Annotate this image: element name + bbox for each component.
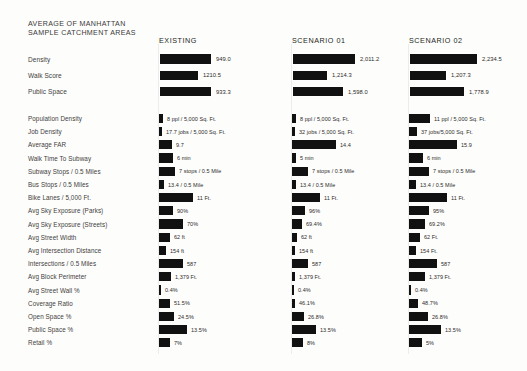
row-label: Coverage Ratio [28,300,73,307]
value-label: 9.7 [176,142,184,148]
row-label: Walk Score [28,72,62,79]
value-label: 6 min [427,155,441,161]
value-label: 5 min [300,155,314,161]
value-bar [292,285,294,294]
table-row: Average FAR9.714.415.9 [0,139,527,152]
column-header-scenario-02: SCENARIO 02 [409,36,463,45]
value-bar [409,153,423,162]
value-bar [159,140,172,149]
value-bar [292,86,344,97]
value-bar [292,233,297,242]
value-bar [409,246,416,255]
value-bar [159,299,170,308]
value-bar [292,114,296,123]
table-row: Coverage Ratio51.5%46.1%48.7% [0,297,527,310]
value-bar [409,70,447,81]
value-bar [409,53,478,64]
value-label: 7% [174,340,182,346]
value-label: 13.5% [320,327,336,333]
column-header-scenario-01: SCENARIO 01 [292,36,346,45]
value-label: 69.2% [429,221,445,227]
table-row: Walk Time To Subway6 min5 min6 min [0,152,527,165]
value-label: 11 Ft. [451,195,465,201]
value-label: 69.4% [306,221,322,227]
row-label: Bus Stops / 0.5 Miles [28,181,89,188]
page-title: AVERAGE OF MANHATTAN SAMPLE CATCHMENT AR… [28,20,136,37]
value-label: 0.4% [298,287,311,293]
row-label: Avg Street Width [28,234,76,241]
value-bar [159,272,171,281]
value-bar [409,325,441,334]
table-row: Retail %7%8%5% [0,337,527,350]
value-bar [159,70,199,81]
row-label: Bike Lanes / 5,000 Ft. [28,194,91,201]
value-bar [292,167,308,176]
value-label: 933.3 [216,89,231,95]
value-label: 1,379 Ft. [299,274,321,280]
row-label: Avg Sky Exposure (Streets) [28,221,107,228]
value-label: 2,234.5 [482,56,502,62]
row-label: Intersections / 0.5 Miles [28,260,96,267]
value-bar [409,259,437,268]
value-label: 62 ft [301,234,312,240]
row-label: Avg Street Wall % [28,287,80,294]
value-label: 6 min [177,155,191,161]
value-label: 14.4 [340,142,351,148]
value-label: 62 Ft. [424,234,438,240]
row-label: Density [28,56,50,63]
value-bar [409,233,420,242]
row-label: Retail % [28,339,52,346]
value-label: 587 [441,261,450,267]
value-label: 11 ppl / 5,000 Sq. Ft. [434,116,486,122]
value-label: 154 ft [299,248,313,254]
value-bar [159,114,163,123]
value-label: 26.8% [308,314,324,320]
value-label: 46.1% [299,300,315,306]
table-row: Avg Intersection Distance154 ft154 ft154… [0,245,527,258]
value-label: 1,778.9 [469,89,489,95]
value-label: 13.5% [445,327,461,333]
row-label: Job Density [28,128,62,135]
value-label: 1,214.3 [332,72,352,78]
table-row: Avg Street Wall %0.4%0.4%0.4% [0,284,527,297]
value-bar [159,180,164,189]
value-label: 1210.5 [203,72,221,78]
value-bar [409,114,430,123]
value-bar [159,259,183,268]
value-label: 8% [307,340,315,346]
value-label: 8 ppl / 5,000 Sq. Ft. [300,116,349,122]
row-label: Average FAR [28,141,66,148]
value-label: 13.4 / 0.5 Mile [420,182,455,188]
row-label: Public Space % [28,326,73,333]
value-bar [292,70,328,81]
value-bar [159,246,166,255]
value-label: 1,379 Ft. [429,274,451,280]
value-label: 1,207.3 [451,72,471,78]
value-bar [292,272,295,281]
value-bar [292,246,295,255]
value-bar [292,325,316,334]
value-bar [159,206,173,215]
value-label: 17.7 jobs / 5,000 Sq. Ft. [166,129,226,135]
value-label: 11 Ft. [324,195,338,201]
value-label: 1,379 Ft. [175,274,197,280]
row-label: Avg Sky Exposure (Parks) [28,207,103,214]
value-bar [409,312,428,321]
value-bar [159,285,161,294]
value-label: 48.7% [422,300,438,306]
value-label: 7 stops / 0.5 Mile [312,168,354,174]
value-bar [159,193,193,202]
row-label: Avg Intersection Distance [28,247,101,254]
row-label: Avg Block Perimeter [28,273,86,280]
value-label: 154 Ft. [420,248,437,254]
table-row: Avg Block Perimeter1,379 Ft.1,379 Ft.1,3… [0,271,527,284]
value-bar [292,127,295,136]
table-row: Public Space %13.5%13.5%13.5% [0,324,527,337]
value-bar [409,127,417,136]
value-label: 7 stops / 0.5 Mile [179,168,221,174]
value-bar [409,206,429,215]
value-bar [292,180,296,189]
table-row: Bike Lanes / 5,000 Ft.11 Ft.11 Ft.11 Ft. [0,192,527,205]
value-bar [409,140,457,149]
value-bar [159,153,173,162]
